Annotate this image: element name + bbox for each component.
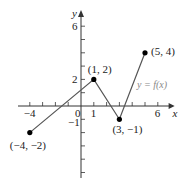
point-label: (3, −1) <box>112 123 142 136</box>
point-label: (1, 2) <box>88 63 112 76</box>
function-graph: 016−426−1yx(−4, −2)(1, 2)(3, −1)(5, 4)y … <box>0 0 179 178</box>
data-point <box>117 117 122 122</box>
x-tick-label: 1 <box>91 107 97 119</box>
y-tick-label: 6 <box>72 20 78 32</box>
function-label: y = f(x) <box>136 79 168 91</box>
data-point <box>142 50 147 55</box>
y-axis-arrow-icon <box>78 10 84 17</box>
x-tick-label: 6 <box>155 107 161 119</box>
point-label: (−4, −2) <box>10 139 47 152</box>
x-axis-label: x <box>172 107 178 119</box>
y-tick-label: −1 <box>68 116 80 128</box>
y-tick-label: 2 <box>72 73 78 85</box>
data-point <box>27 130 32 135</box>
plot-area: 016−426−1yx(−4, −2)(1, 2)(3, −1)(5, 4)y … <box>0 0 179 178</box>
y-axis-label: y <box>71 7 77 19</box>
point-label: (5, 4) <box>151 45 175 58</box>
data-point <box>91 77 96 82</box>
x-tick-label: −4 <box>24 107 36 119</box>
